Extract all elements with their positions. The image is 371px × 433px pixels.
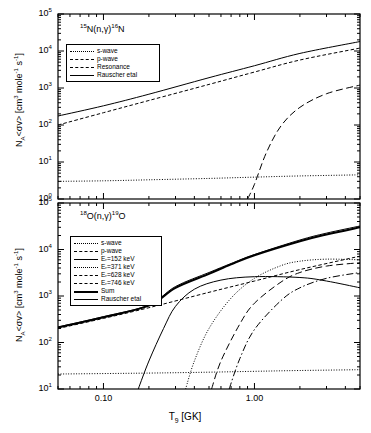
- legend-label: Sum: [101, 287, 114, 295]
- series-line: [186, 259, 360, 389]
- series-line: [212, 263, 360, 389]
- x-tick-label: 1.00: [234, 393, 274, 403]
- series-line: [248, 85, 360, 199]
- legend-row: Sum: [74, 287, 158, 295]
- top-panel-annotation: 15N(n,γ)16N: [80, 24, 125, 34]
- legend-swatch-solid: [74, 255, 98, 263]
- legend-swatch-longdash: [74, 271, 98, 279]
- series-line: [58, 175, 360, 182]
- legend-swatch-dotted: [74, 263, 98, 271]
- legend-row: Eᵣ=628 keV: [74, 271, 158, 279]
- legend-swatch-solid: [74, 295, 98, 303]
- y-tick-label-bottom: 105: [18, 197, 52, 207]
- legend-row: s-wave: [70, 47, 156, 55]
- legend-swatch-dashed: [70, 55, 94, 63]
- series-line: [58, 370, 360, 374]
- y-tick-label-top: 104: [18, 45, 52, 55]
- legend-row: Eᵣ=152 keV: [74, 255, 158, 263]
- y-tick-label-bottom: 104: [18, 244, 52, 254]
- legend-row: Resonance: [70, 63, 156, 71]
- y-tick-label-bottom: 102: [18, 337, 52, 347]
- legend-label: Eᵣ=152 keV: [101, 255, 135, 263]
- legend-label: Eᵣ=746 keV: [101, 279, 135, 287]
- y-tick-label-bottom: 103: [18, 290, 52, 300]
- bottom-panel-annotation: 18O(n,γ)19O: [80, 211, 126, 221]
- series-line: [138, 277, 360, 389]
- legend-label: Eᵣ=371 keV: [101, 263, 135, 271]
- legend-swatch-thick: [74, 287, 98, 295]
- legend-row: s-wave: [74, 239, 158, 247]
- legend-swatch-dotted: [70, 47, 94, 55]
- legend-label: Eᵣ=628 keV: [101, 271, 135, 279]
- legend-swatch-dashdot: [74, 279, 98, 287]
- series-line: [229, 273, 360, 389]
- x-tick-label: 0.10: [83, 393, 123, 403]
- legend-row: Rauscher etal: [74, 295, 158, 303]
- x-axis-label: T9 [GK]: [169, 411, 202, 422]
- legend-label: s-wave: [97, 47, 118, 55]
- y-tick-label-top: 105: [18, 8, 52, 18]
- legend-label: p-wave: [101, 247, 122, 255]
- legend-label: Rauscher etal: [101, 295, 141, 303]
- plot-canvas: [0, 0, 371, 433]
- legend-label: Rauscher etal: [97, 71, 137, 79]
- legend-label: s-wave: [101, 239, 122, 247]
- legend-row: p-wave: [74, 247, 158, 255]
- legend-label: p-wave: [97, 55, 118, 63]
- y-tick-label-bottom: 101: [18, 383, 52, 393]
- legend-row: Eᵣ=746 keV: [74, 279, 158, 287]
- legend-label: Resonance: [97, 63, 130, 71]
- legend-swatch-dotted: [74, 239, 98, 247]
- legend-swatch-dashed: [74, 247, 98, 255]
- figure-root: 15N(n,γ)16N 18O(n,γ)19O s-wavep-waveReso…: [0, 0, 371, 433]
- y-tick-label-top: 102: [18, 119, 52, 129]
- legend-top-panel: s-wavep-waveResonanceRauscher etal: [66, 44, 160, 82]
- y-tick-label-top: 101: [18, 156, 52, 166]
- legend-row: Eᵣ=371 keV: [74, 263, 158, 271]
- legend-bottom-panel: s-wavep-waveEᵣ=152 keVEᵣ=371 keVEᵣ=628 k…: [70, 236, 162, 306]
- legend-swatch-longdash: [70, 63, 94, 71]
- legend-swatch-solid: [70, 71, 94, 79]
- top-panel-frame: [58, 14, 360, 199]
- legend-row: Rauscher etal: [70, 71, 156, 79]
- legend-row: p-wave: [70, 55, 156, 63]
- y-tick-label-top: 103: [18, 82, 52, 92]
